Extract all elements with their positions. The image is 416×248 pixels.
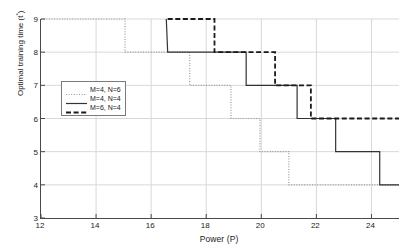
y-tick-label-8: 8 <box>30 48 38 57</box>
x-tick-label-16: 16 <box>146 221 155 230</box>
y-tick-label-5: 5 <box>30 147 38 156</box>
x-tick-label-20: 20 <box>256 221 265 230</box>
x-tick-label-22: 22 <box>311 221 320 230</box>
legend-label: M=4, N=6 <box>90 85 121 94</box>
legend-item-1: M=4, N=6 <box>65 85 121 94</box>
y-tick-label-4: 4 <box>30 180 38 189</box>
legend-line-sample-dashed <box>65 103 88 112</box>
x-tick-label-24: 24 <box>366 221 375 230</box>
legend-line-sample-solid <box>65 94 88 103</box>
x-tick-label-18: 18 <box>201 221 210 230</box>
legend-label: M=6, N=4 <box>90 103 121 112</box>
y-tick-label-7: 7 <box>30 81 38 90</box>
y-tick-label-6: 6 <box>30 114 38 123</box>
y-axis-title-tail: ) <box>16 11 25 14</box>
legend-label: M=4, N=4 <box>90 94 121 103</box>
y-axis-title-superscript: * <box>15 13 21 15</box>
x-tick-label-14: 14 <box>91 221 100 230</box>
legend-line-sample-dotted <box>65 85 88 94</box>
plot-area <box>40 19 399 219</box>
legend-item-2: M=4, N=4 <box>65 94 121 103</box>
chart-figure: 12141618202224 3456789 Power (P) Optimal… <box>0 0 416 248</box>
legend: M=4, N=6M=4, N=4M=6, N=4 <box>61 81 126 116</box>
legend-item-3: M=6, N=4 <box>65 103 121 112</box>
y-axis-title-base: Optimal training time (t <box>16 16 25 96</box>
axis-tick-marks <box>41 19 399 218</box>
y-tick-label-3: 3 <box>30 214 38 223</box>
x-axis-title: Power (P) <box>40 234 398 244</box>
y-tick-label-9: 9 <box>30 15 38 24</box>
y-axis-title: Optimal training time (t*) <box>15 0 26 133</box>
